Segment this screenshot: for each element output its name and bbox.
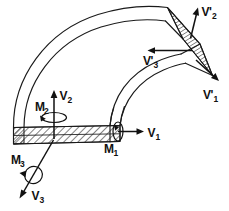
figure-canvas: V 1 M 1 V 2 M 2 V 3 xyxy=(0,0,229,211)
v2-arrowhead xyxy=(51,90,58,98)
v3-label: V xyxy=(32,189,40,203)
beam-near-junction-inner xyxy=(110,108,114,126)
v3p-subscript: 3 xyxy=(154,60,159,70)
m3-rotation-arrowhead xyxy=(20,171,27,178)
beam-inner-concave-edge xyxy=(120,63,186,125)
moment-m3: M 3 xyxy=(11,153,45,187)
v2p-subscript: 2 xyxy=(212,11,217,21)
curved-beam-diagram: V 1 M 1 V 2 M 2 V 3 xyxy=(0,0,229,211)
v1-arrowhead xyxy=(137,128,145,135)
v3-arrowhead xyxy=(20,190,27,199)
m3-subscript: 3 xyxy=(20,159,25,169)
v3-shaft xyxy=(24,140,54,192)
v2-label: V xyxy=(60,89,68,103)
v2p-shaft xyxy=(191,14,197,39)
slab-left-end-face xyxy=(14,128,25,145)
vector-v1: V 1 xyxy=(118,126,161,142)
v1p-subscript: 1 xyxy=(214,94,219,104)
vector-v2-prime: V ' 2 xyxy=(191,5,218,39)
v1-label: V xyxy=(148,126,156,140)
vector-v3-prime: V ' 3 xyxy=(143,47,192,69)
m1-subscript: 1 xyxy=(114,148,119,158)
v3-subscript: 3 xyxy=(40,195,45,205)
v2p-arrowhead xyxy=(193,8,200,16)
moment-m2: M 2 xyxy=(35,100,67,123)
m2-subscript: 2 xyxy=(44,106,49,116)
v1-subscript: 1 xyxy=(156,132,161,142)
v2-subscript: 2 xyxy=(68,95,73,105)
m1-label: M xyxy=(104,142,114,156)
